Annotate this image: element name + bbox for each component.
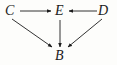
node-label-b: B (55, 49, 64, 63)
edge-d-to-b (68, 19, 102, 47)
node-label-e: E (55, 4, 64, 18)
node-label-d: D (98, 4, 108, 18)
edge-c-to-b (12, 19, 52, 47)
directed-graph-figure: C E D B (0, 0, 117, 65)
node-label-c: C (5, 4, 14, 18)
